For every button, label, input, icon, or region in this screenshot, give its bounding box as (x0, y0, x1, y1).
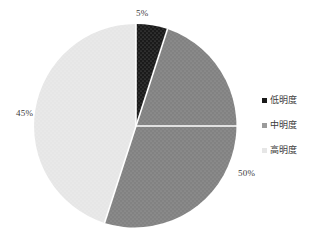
chart-legend: 低明度 中明度 高明度 (262, 88, 320, 163)
legend-item-mid[interactable]: 中明度 (262, 113, 320, 138)
pie-chart-figure: 5% 45% 50% 低明度 中明度 高明度 (0, 0, 322, 245)
legend-label-low: 低明度 (270, 96, 297, 105)
legend-label-high: 高明度 (270, 146, 297, 155)
legend-item-high[interactable]: 高明度 (262, 138, 320, 163)
pie-label-mid: 50% (238, 168, 255, 178)
pie-label-high: 45% (16, 108, 33, 118)
pie-label-low: 5% (136, 8, 148, 18)
pie-chart-plot-area (34, 24, 238, 228)
legend-swatch-mid-icon (262, 123, 267, 128)
legend-swatch-high-icon (262, 148, 267, 153)
legend-label-mid: 中明度 (270, 121, 297, 130)
legend-swatch-low-icon (262, 98, 267, 103)
legend-item-low[interactable]: 低明度 (262, 88, 320, 113)
pie-chart-svg (34, 24, 238, 228)
